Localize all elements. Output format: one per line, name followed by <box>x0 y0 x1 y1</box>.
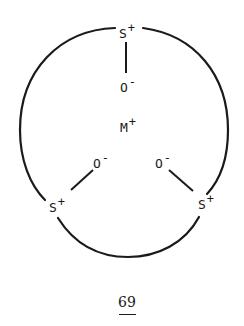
ring-arc-top-left <box>20 28 115 200</box>
atom-s-left: S+ <box>49 201 65 215</box>
atom-symbol: O <box>93 156 101 171</box>
bond-right-s-o <box>169 170 193 191</box>
atom-charge: + <box>128 21 135 35</box>
compound-label: 69 <box>112 294 142 310</box>
atom-charge: - <box>129 75 136 89</box>
atom-charge: + <box>207 192 214 206</box>
atom-symbol: S <box>49 200 57 215</box>
atom-s-top: S+ <box>119 27 135 41</box>
bond-left-s-o <box>71 170 93 190</box>
atom-charge: - <box>102 151 109 165</box>
atom-symbol: M <box>120 120 128 135</box>
ring-arc-bottom <box>58 217 199 257</box>
atom-o-left: O- <box>93 157 109 171</box>
atom-o-top: O- <box>120 81 136 95</box>
structure-drawing <box>0 0 244 326</box>
atom-symbol: S <box>198 197 206 212</box>
atom-symbol: O <box>155 156 163 171</box>
atom-symbol: S <box>119 26 127 41</box>
atom-symbol: O <box>120 80 128 95</box>
atom-charge: - <box>164 151 171 165</box>
compound-label-underline <box>119 314 136 315</box>
atom-charge: + <box>58 195 65 209</box>
atom-o-right: O- <box>155 157 171 171</box>
atom-charge: + <box>129 115 136 129</box>
atom-s-right: S+ <box>198 198 214 212</box>
atom-m-center: M+ <box>120 121 136 135</box>
